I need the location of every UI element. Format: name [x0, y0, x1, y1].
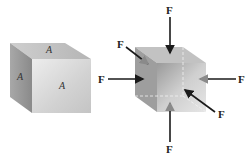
force-label-upper-left: F: [117, 38, 124, 50]
force-label-left: F: [98, 73, 105, 85]
force-label-right: F: [238, 73, 245, 85]
force-label-lower-right: F: [218, 108, 225, 120]
left-cube-top-label: A: [45, 44, 53, 55]
left-cube: A A A: [10, 43, 91, 113]
stress-diagram: A A A F F F F F F: [0, 0, 251, 159]
right-cube: [135, 47, 206, 112]
force-label-bottom: F: [166, 143, 173, 155]
left-cube-front-label: A: [58, 80, 66, 91]
force-label-top: F: [166, 4, 173, 16]
right-cube-front-face: [157, 63, 206, 112]
left-cube-side-label: A: [16, 71, 24, 82]
